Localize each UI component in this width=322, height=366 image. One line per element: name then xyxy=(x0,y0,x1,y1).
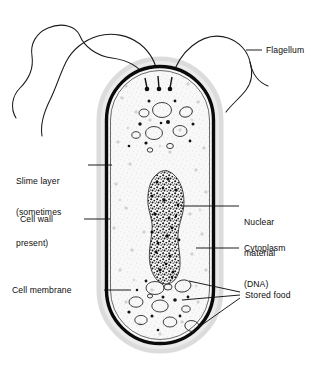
label-stored-food: Stored food xyxy=(245,290,291,300)
label-cell-wall: Cell wall xyxy=(20,214,53,224)
label-cytoplasm: Cytoplasm xyxy=(244,243,286,253)
label-nuclear-line1: Nuclear xyxy=(244,217,275,227)
label-flagellum: Flagellum xyxy=(266,45,304,55)
label-slime-layer-line1: Slime layer xyxy=(16,176,61,186)
label-slime-layer-line3: present) xyxy=(16,238,61,248)
label-slime-layer: Slime layer (sometimes present) xyxy=(16,155,61,259)
label-nuclear-line3: (DNA) xyxy=(244,279,275,289)
label-cell-membrane: Cell membrane xyxy=(12,285,72,295)
flagellum-3-tail xyxy=(226,62,252,112)
nuclear-material-dna xyxy=(148,171,184,284)
